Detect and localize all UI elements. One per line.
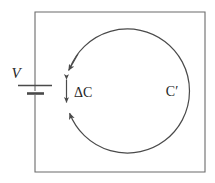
circuit-rectangle	[35, 12, 205, 172]
voltage-label: V	[11, 65, 22, 81]
circuit-contour-figure: V ΔC C′	[0, 0, 215, 183]
delta-c-label: ΔC	[74, 85, 92, 100]
contour-prime-label: C′	[166, 84, 178, 99]
contour-gap-top-arrow	[69, 54, 78, 71]
diagram-canvas: V ΔC C′	[0, 0, 215, 183]
